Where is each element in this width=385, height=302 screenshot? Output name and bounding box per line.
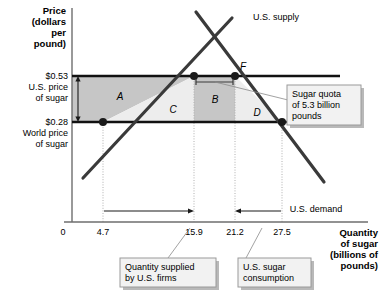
us-price-label-line1: U.S. price <box>28 82 68 92</box>
supplied-callout-line1: Quantity supplied <box>125 262 195 272</box>
x-tick-15-9: 15.9 <box>185 227 203 237</box>
y-axis-title-line2: (dollars <box>32 16 66 27</box>
supplied-measure-arrow-head <box>188 208 194 213</box>
figure-container: Price (dollars per pound) $0.53 U.S. pri… <box>0 0 385 302</box>
world-price-value: $0.28 <box>45 117 68 127</box>
point-e <box>278 118 286 126</box>
region-label-d: D <box>253 107 260 118</box>
point-label-f: F <box>240 61 247 72</box>
quota-callout-line3: pounds <box>292 111 322 121</box>
world-price-label-line1: World price <box>23 128 68 138</box>
y-axis-title-line3: per <box>51 27 66 38</box>
y-axis-title-line1: Price <box>43 5 66 16</box>
x-axis-title-line1: Quantity <box>339 227 378 238</box>
supply-demand-diagram: Price (dollars per pound) $0.53 U.S. pri… <box>0 0 385 302</box>
quota-callout-line2: of 5.3 billion <box>292 100 340 110</box>
us-demand-label: U.S. demand <box>290 204 343 214</box>
us-supply-label: U.S. supply <box>253 12 300 22</box>
region-label-b: B <box>212 94 219 105</box>
consumption-callout-line2: consumption <box>243 273 294 283</box>
world-price-label-line2: of sugar <box>35 139 68 149</box>
y-axis-title-line4: pound) <box>34 38 66 49</box>
x-axis-title-line4: pounds) <box>341 260 378 271</box>
consumption-callout-line1: U.S. sugar <box>243 262 286 272</box>
point-supply-us <box>190 72 198 80</box>
x-axis-title-line2: of sugar <box>341 238 379 249</box>
us-price-label-line2: of sugar <box>35 93 68 103</box>
x-tick-0: 0 <box>60 227 65 237</box>
quota-callout-line1: Sugar quota <box>292 89 341 99</box>
consumption-measure-arrow-head <box>235 208 241 213</box>
x-axis-title-line3: (billions of <box>330 249 379 260</box>
point-f <box>231 72 239 80</box>
x-tick-21-2: 21.2 <box>226 227 244 237</box>
supplied-callout-line2: by U.S. firms <box>125 273 177 283</box>
x-tick-27-5: 27.5 <box>273 227 291 237</box>
us-price-value: $0.53 <box>45 71 68 81</box>
region-label-a: A <box>116 91 124 102</box>
x-tick-4-7: 4.7 <box>97 227 110 237</box>
consumption-leader-line <box>246 228 262 258</box>
region-label-c: C <box>169 104 177 115</box>
point-supply-world <box>99 118 107 126</box>
